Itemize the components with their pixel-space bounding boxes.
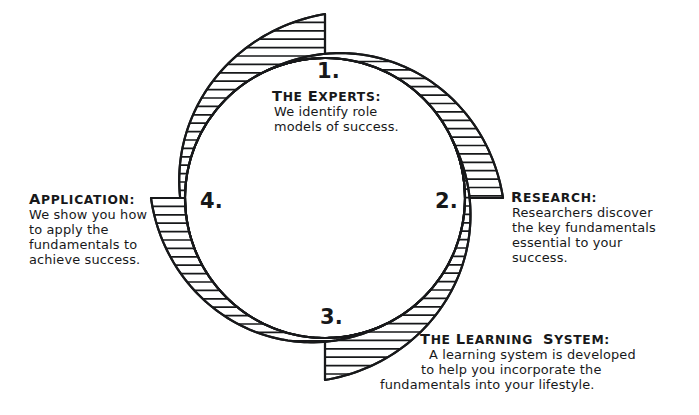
step-body-learning-line-3: fundamentals into your lifestyle. <box>380 378 636 393</box>
step-body-research-line-1: Researchers discover <box>511 206 656 221</box>
step-body-research-line-2: the key fundamentals <box>511 221 656 236</box>
step-body-research-line-3: essential to your <box>511 236 656 251</box>
step-block-application: APPLICATION: We show you how to apply th… <box>29 191 147 268</box>
step-body-application-line-3: fundamentals to <box>29 238 147 253</box>
step-heading-research: RESEARCH: <box>511 189 656 206</box>
step-body-experts-line-1: We identify role <box>272 105 399 120</box>
step-body-application-line-2: to apply the <box>29 223 147 238</box>
arc-step-1 <box>179 14 325 257</box>
step-number-2: 2. <box>435 189 458 213</box>
step-heading-application: APPLICATION: <box>29 191 147 208</box>
step-body-application-line-1: We show you how <box>29 208 147 223</box>
step-heading-learning-system: THE LEARNING SYSTEM: <box>420 331 636 348</box>
step-body-research-line-4: success. <box>511 251 656 266</box>
step-body-experts-line-2: models of success. <box>272 120 399 135</box>
step-number-3: 3. <box>320 305 343 329</box>
step-block-research: RESEARCH: Researchers discover the key f… <box>511 189 656 266</box>
step-block-experts: THE EXPERTS: We identify role models of … <box>272 88 399 135</box>
step-body-learning-line-1: A learning system is developed <box>420 348 636 363</box>
step-body-learning-line-2: to help you incorporate the <box>420 363 636 378</box>
step-block-learning-system: THE LEARNING SYSTEM: A learning system i… <box>420 331 636 393</box>
step-body-application-line-4: achieve success. <box>29 253 147 268</box>
step-number-1: 1. <box>317 59 340 83</box>
step-number-4: 4. <box>200 189 223 213</box>
cycle-diagram: 1. 2. 3. 4. THE EXPERTS: We identify rol… <box>0 0 699 415</box>
step-heading-experts: THE EXPERTS: <box>272 88 399 105</box>
